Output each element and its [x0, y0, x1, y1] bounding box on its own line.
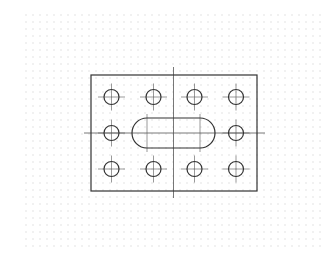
grid-dot: [82, 57, 83, 58]
grid-dot: [159, 246, 160, 247]
grid-dot: [89, 99, 90, 100]
grid-dot: [222, 29, 223, 30]
grid-dot: [26, 211, 27, 212]
grid-dot: [306, 218, 307, 219]
grid-dot: [138, 29, 139, 30]
grid-dot: [299, 134, 300, 135]
grid-dot: [54, 57, 55, 58]
grid-dot: [103, 120, 104, 121]
grid-dot: [68, 155, 69, 156]
grid-dot: [271, 218, 272, 219]
grid-dot: [292, 29, 293, 30]
grid-dot: [33, 176, 34, 177]
grid-dot: [271, 190, 272, 191]
grid-dot: [201, 134, 202, 135]
grid-dot: [243, 57, 244, 58]
grid-dot: [68, 169, 69, 170]
grid-dot: [117, 225, 118, 226]
grid-dot: [299, 106, 300, 107]
grid-dot: [131, 106, 132, 107]
grid-dot: [236, 148, 237, 149]
grid-dot: [82, 43, 83, 44]
grid-dot: [138, 197, 139, 198]
grid-dot: [159, 99, 160, 100]
grid-dot: [117, 155, 118, 156]
grid-dot: [159, 57, 160, 58]
grid-dot: [313, 22, 314, 23]
grid-dot: [173, 211, 174, 212]
grid-dot: [208, 106, 209, 107]
grid-dot: [222, 218, 223, 219]
grid-dot: [306, 36, 307, 37]
grid-dot: [299, 176, 300, 177]
grid-dot: [68, 162, 69, 163]
hole: [140, 156, 167, 183]
grid-dot: [257, 43, 258, 44]
grid-dot: [82, 232, 83, 233]
grid-dot: [299, 120, 300, 121]
grid-dot: [82, 99, 83, 100]
grid-dot: [292, 225, 293, 226]
grid-dot: [166, 204, 167, 205]
grid-dot: [26, 71, 27, 72]
grid-dot: [306, 120, 307, 121]
grid-dot: [320, 99, 321, 100]
grid-dot: [173, 239, 174, 240]
grid-dot: [54, 43, 55, 44]
grid-dot: [26, 218, 27, 219]
grid-dot: [215, 141, 216, 142]
grid-dot: [47, 36, 48, 37]
grid-dot: [320, 57, 321, 58]
grid-dot: [222, 204, 223, 205]
grid-dot: [313, 92, 314, 93]
grid-dot: [33, 162, 34, 163]
grid-dot: [229, 36, 230, 37]
grid-dot: [222, 85, 223, 86]
grid-dot: [187, 211, 188, 212]
grid-dot: [222, 232, 223, 233]
grid-dot: [215, 148, 216, 149]
grid-dot: [96, 162, 97, 163]
grid-dot: [110, 246, 111, 247]
grid-dot: [68, 22, 69, 23]
grid-dot: [47, 85, 48, 86]
grid-dot: [61, 57, 62, 58]
grid-dot: [201, 64, 202, 65]
grid-dot: [26, 57, 27, 58]
grid-dot: [96, 127, 97, 128]
grid-dot: [33, 190, 34, 191]
grid-dot: [250, 134, 251, 135]
grid-dot: [103, 141, 104, 142]
grid-dot: [208, 15, 209, 16]
grid-dot: [194, 113, 195, 114]
grid-dot: [131, 148, 132, 149]
grid-dot: [26, 15, 27, 16]
grid-dot: [250, 57, 251, 58]
grid-dot: [306, 78, 307, 79]
grid-dot: [250, 99, 251, 100]
centerlines: [84, 67, 265, 198]
grid-dot: [166, 64, 167, 65]
grid-dot: [96, 225, 97, 226]
grid-dot: [33, 36, 34, 37]
grid-dot: [236, 43, 237, 44]
grid-dot: [201, 15, 202, 16]
grid-dot: [320, 148, 321, 149]
grid-dot: [89, 155, 90, 156]
grid-dot: [264, 211, 265, 212]
grid-dot: [138, 22, 139, 23]
grid-dot: [208, 246, 209, 247]
grid-dot: [75, 92, 76, 93]
grid-dot: [201, 190, 202, 191]
grid-dot: [61, 162, 62, 163]
grid-dot: [271, 225, 272, 226]
grid-dot: [271, 92, 272, 93]
grid-dot: [124, 29, 125, 30]
grid-dot: [131, 155, 132, 156]
grid-dot: [117, 85, 118, 86]
grid-dot: [320, 36, 321, 37]
grid-dot: [271, 78, 272, 79]
grid-dot: [222, 197, 223, 198]
grid-dot: [250, 204, 251, 205]
grid-dot: [285, 134, 286, 135]
